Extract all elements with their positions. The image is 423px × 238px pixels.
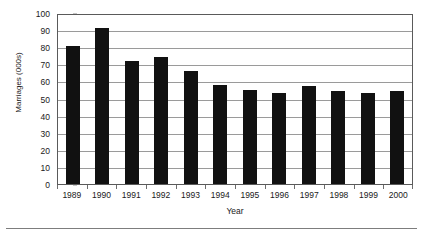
y-tick-label: 100 <box>36 9 50 19</box>
bar <box>361 93 375 184</box>
y-tick-label: 70 <box>41 60 50 70</box>
y-tick-label: 30 <box>41 129 50 139</box>
bar-slot <box>294 15 324 184</box>
footer-divider <box>6 228 417 229</box>
y-axis-tick-labels: 0102030405060708090100 <box>20 14 50 185</box>
y-tick-label: 10 <box>41 163 50 173</box>
x-tick-label: 1989 <box>57 190 87 200</box>
bar-slot <box>206 15 236 184</box>
bar <box>243 90 257 184</box>
bar <box>213 85 227 184</box>
plot-area <box>57 14 413 185</box>
bar <box>302 86 316 184</box>
bar-series <box>58 15 412 184</box>
y-tick-label: 60 <box>41 77 50 87</box>
x-tick-label: 1997 <box>294 190 324 200</box>
x-tick-label: 1993 <box>176 190 206 200</box>
x-tick-mark <box>354 185 355 189</box>
x-tick-label: 1991 <box>116 190 146 200</box>
bar <box>184 71 198 184</box>
x-tick-mark <box>265 185 266 189</box>
x-tick-label: 1998 <box>324 190 354 200</box>
y-tick-label: 0 <box>45 180 50 190</box>
x-tick-mark <box>116 185 117 189</box>
bar-slot <box>88 15 118 184</box>
bar-slot <box>383 15 413 184</box>
bar <box>390 91 404 184</box>
bar <box>331 91 345 184</box>
bar <box>95 28 109 184</box>
x-axis-title: Year <box>57 206 413 216</box>
x-tick-mark <box>294 185 295 189</box>
bar <box>154 57 168 184</box>
x-tick-mark <box>412 185 413 189</box>
x-tick-label: 2000 <box>383 190 413 200</box>
x-tick-mark <box>324 185 325 189</box>
bar-chart: Marriages (000s) 0102030405060708090100 … <box>0 0 423 215</box>
bar <box>66 46 80 185</box>
x-tick-label: 1999 <box>354 190 384 200</box>
x-tick-mark <box>383 185 384 189</box>
x-tick-mark <box>176 185 177 189</box>
x-tick-mark <box>205 185 206 189</box>
bar-slot <box>176 15 206 184</box>
x-tick-mark <box>235 185 236 189</box>
x-tick-label: 1990 <box>87 190 117 200</box>
x-tick-mark <box>146 185 147 189</box>
y-tick-label: 40 <box>41 112 50 122</box>
x-axis-tick-labels: 1989199019911992199319941995199619971998… <box>57 190 413 200</box>
x-tick-mark <box>57 185 58 189</box>
x-tick-mark <box>87 185 88 189</box>
y-tick-label: 50 <box>41 95 50 105</box>
bar-slot <box>324 15 354 184</box>
bar-slot <box>147 15 177 184</box>
bar-slot <box>58 15 88 184</box>
y-tick-label: 80 <box>41 43 50 53</box>
y-tick-label: 20 <box>41 146 50 156</box>
bar <box>125 61 139 184</box>
x-tick-label: 1994 <box>205 190 235 200</box>
bar-slot <box>117 15 147 184</box>
bar-slot <box>235 15 265 184</box>
y-tick-label: 90 <box>41 26 50 36</box>
bar-slot <box>265 15 295 184</box>
x-tick-label: 1992 <box>146 190 176 200</box>
x-tick-label: 1996 <box>265 190 295 200</box>
bar-slot <box>353 15 383 184</box>
x-tick-label: 1995 <box>235 190 265 200</box>
bar <box>272 93 286 184</box>
